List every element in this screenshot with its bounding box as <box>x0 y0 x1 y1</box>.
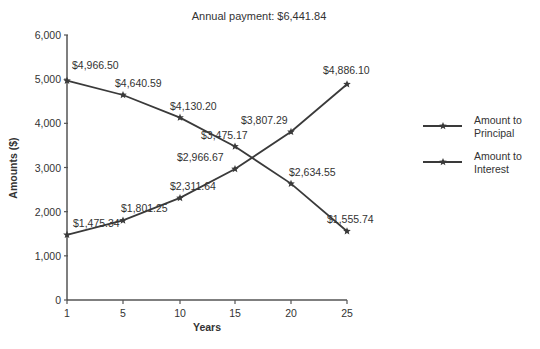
data-label: $1,801.25 <box>121 202 168 214</box>
data-label: $3,475.17 <box>201 129 248 141</box>
data-label: $4,130.20 <box>170 100 217 112</box>
line-chart: Annual payment: $6,441.84 01,0002,0003,0… <box>0 0 540 349</box>
star-marker-icon <box>119 91 127 98</box>
chart-title: Annual payment: $6,441.84 <box>192 10 327 22</box>
y-tick-label: 6,000 <box>35 29 61 41</box>
legend-label: Amount to <box>474 114 522 126</box>
y-axis-label: Amounts ($) <box>7 137 19 198</box>
x-tick-label: 15 <box>229 307 241 319</box>
legend-item-interest: Amount toInterest <box>423 150 522 175</box>
legend-label: Interest <box>474 163 509 175</box>
legend: Amount toPrincipalAmount toInterest <box>423 114 522 175</box>
data-label: $4,966.50 <box>72 59 119 71</box>
y-tick-label: 5,000 <box>35 73 61 85</box>
star-marker-icon <box>439 122 447 129</box>
series-layer: $1,475.34$1,801.25$2,311.64$2,966.67$3,8… <box>63 59 374 238</box>
x-tick-label: 25 <box>341 307 353 319</box>
star-marker-icon <box>176 194 184 201</box>
data-label: $4,640.59 <box>115 77 162 89</box>
data-label: $1,475.34 <box>73 217 120 229</box>
x-axis-label: Years <box>193 321 221 333</box>
y-tick-label: 0 <box>55 294 61 306</box>
x-tick-label: 5 <box>120 307 126 319</box>
y-axis: 01,0002,0003,0004,0005,0006,000 <box>35 29 68 306</box>
y-tick-label: 3,000 <box>35 162 61 174</box>
data-label: $1,555.74 <box>327 213 374 225</box>
data-label: $2,966.67 <box>177 151 224 163</box>
x-tick-label: 1 <box>64 307 70 319</box>
x-axis: 1510152025 <box>64 300 353 319</box>
data-label: $3,807.29 <box>241 114 288 126</box>
y-tick-label: 2,000 <box>35 206 61 218</box>
legend-item-principal: Amount toPrincipal <box>423 114 522 139</box>
legend-label: Principal <box>474 127 514 139</box>
star-marker-icon <box>439 158 447 165</box>
data-label: $4,886.10 <box>323 64 370 76</box>
data-label: $2,311.64 <box>170 180 216 192</box>
data-label: $2,634.55 <box>289 166 336 178</box>
star-marker-icon <box>119 216 127 223</box>
legend-label: Amount to <box>474 150 522 162</box>
x-tick-label: 20 <box>285 307 297 319</box>
y-tick-label: 1,000 <box>35 250 61 262</box>
series-interest: $4,966.50$4,640.59$4,130.20$3,475.17$2,6… <box>63 59 374 235</box>
y-tick-label: 4,000 <box>35 117 61 129</box>
x-tick-label: 10 <box>174 307 186 319</box>
